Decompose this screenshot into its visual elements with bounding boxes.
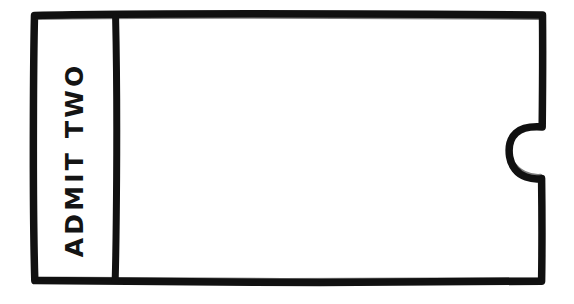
tear-line <box>115 18 117 281</box>
ticket-sketch-canvas: ADMIT TWO <box>0 0 574 304</box>
stub-label-group: ADMIT TWO <box>60 63 89 258</box>
ticket-paper-fill <box>35 16 542 281</box>
stub-label-text: ADMIT TWO <box>60 63 89 258</box>
ticket-drawing: ADMIT TWO <box>0 0 574 304</box>
